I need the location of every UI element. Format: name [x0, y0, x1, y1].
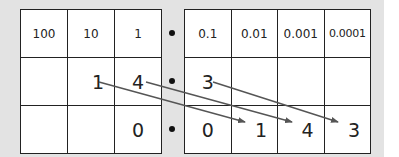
cell-tens: 1: [68, 58, 115, 106]
cell-ones: 0: [115, 106, 162, 154]
cell-thousandths: 4: [278, 106, 325, 154]
result-number-row: 0: [21, 106, 162, 154]
cell-thousandths: [278, 58, 325, 106]
header-tenths: 0.1: [185, 10, 232, 58]
whole-number-grid: 100 10 1 1 4 0: [20, 9, 162, 154]
cell-hundreds: [21, 58, 68, 106]
header-ones: 1: [115, 10, 162, 58]
cell-ten-thousandths: [324, 58, 371, 106]
header-row: 100 10 1: [21, 10, 162, 58]
cell-hundredths: 1: [231, 106, 278, 154]
cell-ten-thousandths: 3: [324, 106, 371, 154]
cell-tens: [68, 106, 115, 154]
header-ten-thousandths: 0.0001: [324, 10, 371, 58]
header-row: 0.1 0.01 0.001 0.0001: [185, 10, 371, 58]
cell-hundredths: [231, 58, 278, 106]
decimal-point-header: [169, 30, 175, 36]
cell-tenths: 0: [185, 106, 232, 154]
cell-ones: 4: [115, 58, 162, 106]
cell-tenths: 3: [185, 58, 232, 106]
header-tens: 10: [68, 10, 115, 58]
header-thousandths: 0.001: [278, 10, 325, 58]
decimal-point-row-1: [169, 78, 175, 84]
decimal-point-row-2: [169, 126, 175, 132]
decimal-grid: 0.1 0.01 0.001 0.0001 3 0 1 4 3: [184, 9, 371, 154]
result-number-row: 0 1 4 3: [185, 106, 371, 154]
header-hundreds: 100: [21, 10, 68, 58]
cell-hundreds: [21, 106, 68, 154]
original-number-row: 3: [185, 58, 371, 106]
original-number-row: 1 4: [21, 58, 162, 106]
header-hundredths: 0.01: [231, 10, 278, 58]
